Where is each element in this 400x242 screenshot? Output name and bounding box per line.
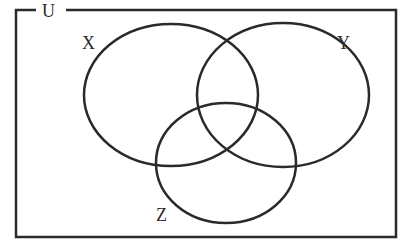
universe-label: U	[42, 2, 55, 20]
set-z-label: Z	[156, 206, 167, 224]
set-y-label: Y	[337, 34, 350, 52]
set-z-ellipse	[156, 103, 296, 223]
set-x-label: X	[82, 34, 95, 52]
set-x-ellipse	[84, 24, 258, 166]
